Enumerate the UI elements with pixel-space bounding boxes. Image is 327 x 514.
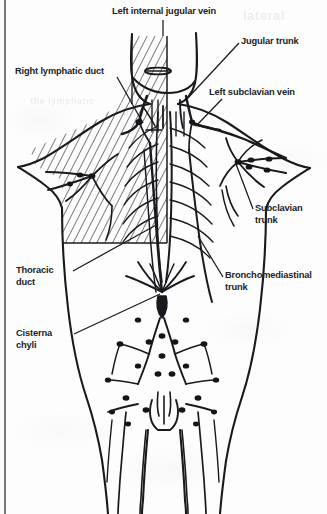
label-left-subclavian-vein: Left subclavian vein — [209, 87, 295, 99]
label-thoracic-duct: Thoracic duct — [16, 265, 74, 288]
leader-cisterna-chyli — [74, 294, 160, 334]
label-jugular-trunk: Jugular trunk — [241, 36, 298, 48]
label-left-internal-jugular-vein: Left internal jugular vein — [112, 6, 216, 18]
label-subclavian-trunk: Subclavian trunk — [255, 203, 317, 226]
label-cisterna-chyli: Cisterna chyli — [16, 328, 68, 351]
figure-page: lateral the lymphatic drainage region — [0, 0, 327, 514]
leader-left-subclavian-vein — [196, 99, 222, 126]
label-bronchomediastinal-trunk: Bronchomediastinal trunk — [225, 270, 325, 293]
abdominal-lymphatic-chain — [107, 344, 219, 514]
label-right-lymphatic-duct: Right lymphatic duct — [15, 66, 104, 78]
